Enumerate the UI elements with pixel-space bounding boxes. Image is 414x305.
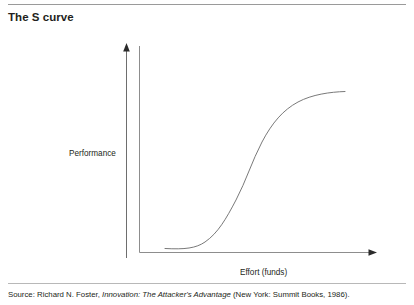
source-prefix: Source: Richard N. Foster,: [8, 290, 102, 299]
x-axis-label: Effort (funds): [240, 268, 287, 277]
y-axis-label: Performance: [69, 149, 116, 158]
x-axis-arrow: [140, 249, 378, 256]
source-suffix: (New York: Summit Books, 1986).: [231, 290, 350, 299]
y-axis-arrow: [123, 43, 130, 258]
bottom-divider: [8, 283, 406, 284]
chart-plot-area: [0, 30, 414, 280]
source-book-title: Innovation: The Attacker's Advantage: [102, 290, 231, 299]
page-title: The S curve: [8, 11, 74, 23]
s-curve-chart: [0, 30, 414, 280]
s-curve-path: [165, 92, 345, 249]
figure-container: The S curve Performance Effort (funds) S…: [0, 0, 414, 305]
source-note: Source: Richard N. Foster, Innovation: T…: [8, 290, 350, 299]
top-divider: [8, 4, 406, 5]
